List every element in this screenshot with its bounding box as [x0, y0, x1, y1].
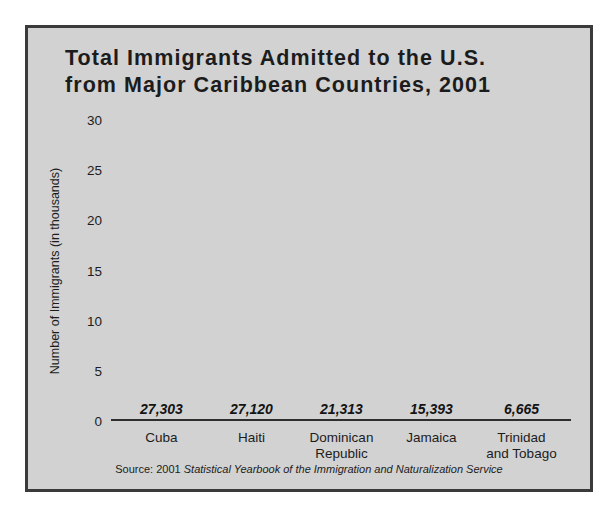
bar-series: 27,303 Cuba 27,120 Haiti 21,313 Dominica…	[111, 120, 571, 421]
y-tick-0: 0	[94, 414, 102, 429]
source-prefix: Source: 2001	[115, 463, 184, 475]
y-axis-title: Number of Immigrants (in thousands)	[48, 167, 62, 373]
bar-value-label: 15,393	[410, 401, 453, 417]
chart-title: Total Immigrants Admitted to the U.S. fr…	[65, 45, 575, 99]
y-tick-30: 30	[87, 113, 102, 128]
plot-area: Number of Immigrants (in thousands) 30 2…	[111, 120, 571, 421]
y-tick-10: 10	[87, 313, 102, 328]
y-tick-25: 25	[87, 163, 102, 178]
bar-value-label: 6,665	[504, 401, 539, 417]
y-tick-20: 20	[87, 213, 102, 228]
bar-value-label: 21,313	[320, 401, 363, 417]
bar-value-label: 27,303	[140, 401, 183, 417]
x-axis-line	[111, 419, 571, 421]
y-tick-15: 15	[87, 263, 102, 278]
y-tick-5: 5	[94, 363, 102, 378]
chart-figure: Total Immigrants Admitted to the U.S. fr…	[25, 25, 593, 492]
source-publication-title: Statistical Yearbook of the Immigration …	[184, 463, 503, 475]
x-tick-trinidad-and-tobago: Trinidad and Tobago	[468, 430, 576, 462]
source-note: Source: 2001 Statistical Yearbook of the…	[28, 463, 590, 475]
bar-value-label: 27,120	[230, 401, 273, 417]
